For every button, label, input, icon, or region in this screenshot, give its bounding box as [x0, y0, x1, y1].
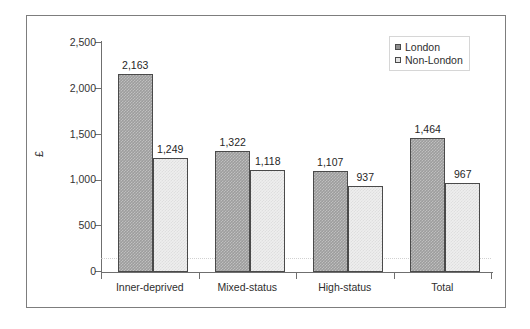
x-tick-mark [491, 272, 492, 279]
x-tick-mark [199, 272, 200, 279]
plot-area: 2,1631,2491,3221,1181,1079371,464967 [101, 43, 491, 272]
legend-item-non-london: Non-London [395, 53, 463, 66]
legend-label-london: London [405, 41, 440, 53]
y-tick-label: 0 [90, 265, 96, 277]
bar-value-label: 937 [339, 171, 392, 183]
non-london-swatch-icon [395, 57, 401, 63]
y-tick-label: 1,500 [70, 128, 96, 140]
x-axis-category-label: High-status [296, 281, 394, 293]
x-tick-mark [296, 272, 297, 279]
x-axis-category-label: Inner-deprived [101, 281, 199, 293]
london-swatch-icon [395, 44, 401, 50]
y-tick-label: 1,000 [70, 173, 96, 185]
bar-london [313, 171, 348, 272]
bar-london [410, 138, 445, 272]
bar-value-label: 1,464 [401, 123, 454, 135]
bar-london [215, 151, 250, 272]
x-axis-category-label: Total [394, 281, 492, 293]
y-tick-label: 500 [78, 219, 96, 231]
bar-non-london [348, 186, 383, 272]
bar-value-label: 1,107 [304, 156, 357, 168]
bar-london [118, 74, 153, 272]
y-tick-label: 2,000 [70, 82, 96, 94]
y-axis-title: £ [33, 151, 45, 157]
bar-non-london [250, 170, 285, 272]
x-tick-mark [394, 272, 395, 279]
x-tick-mark [101, 272, 102, 279]
bar-value-label: 967 [436, 168, 489, 180]
bar-value-label: 1,118 [241, 155, 294, 167]
bar-value-label: 1,249 [144, 143, 197, 155]
bar-value-label: 2,163 [109, 59, 162, 71]
x-axis-category-label: Mixed-status [199, 281, 297, 293]
bar-non-london [153, 158, 188, 272]
chart-figure: £ 05001,0001,5002,0002,500 Inner-deprive… [0, 0, 530, 329]
legend-label-non-london: Non-London [405, 54, 463, 66]
x-axis-line [101, 272, 493, 273]
y-tick-label: 2,500 [70, 36, 96, 48]
legend-item-london: London [395, 40, 463, 53]
bar-non-london [445, 183, 480, 272]
bar-value-label: 1,322 [206, 136, 259, 148]
chart-legend: London Non-London [389, 36, 470, 71]
